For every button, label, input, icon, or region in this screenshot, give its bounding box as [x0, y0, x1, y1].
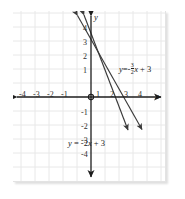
x-axis-label: x: [155, 92, 159, 101]
eq-b-var: x: [88, 138, 92, 148]
y-tick-4: 4: [83, 25, 87, 33]
x-tick-4: 4: [138, 91, 142, 99]
equation-label-neg-two: y = -2x + 3: [68, 139, 105, 148]
x-tick--1: -1: [61, 91, 68, 99]
eq-b-lhs: y: [68, 138, 72, 148]
y-tick-2: 2: [83, 53, 87, 61]
y-tick-1: 1: [83, 67, 87, 75]
y-tick-3: 3: [83, 39, 87, 47]
eq-a-var: x: [134, 64, 138, 74]
eq-a-constant: + 3: [140, 64, 151, 74]
x-tick--4: -4: [19, 91, 26, 99]
y-axis-label: y: [94, 13, 98, 22]
y-tick--1: -1: [81, 109, 88, 117]
x-tick--3: -3: [33, 91, 40, 99]
x-tick-1: 1: [96, 91, 100, 99]
eq-b-equals: = -2: [74, 138, 88, 148]
y-tick--2: -2: [81, 123, 88, 131]
eq-b-constant: + 3: [94, 138, 105, 148]
x-tick-3: 3: [124, 91, 128, 99]
x-tick-2: 2: [110, 91, 114, 99]
x-tick--2: -2: [47, 91, 54, 99]
coordinate-plane-figure: -4 -3 -2 -1 1 2 3 4 4 3 2 1 -1 -2 -3 -4 …: [0, 0, 185, 199]
y-tick--4: -4: [81, 151, 88, 159]
equation-label-three-halves: y=-32x + 3: [119, 62, 151, 75]
